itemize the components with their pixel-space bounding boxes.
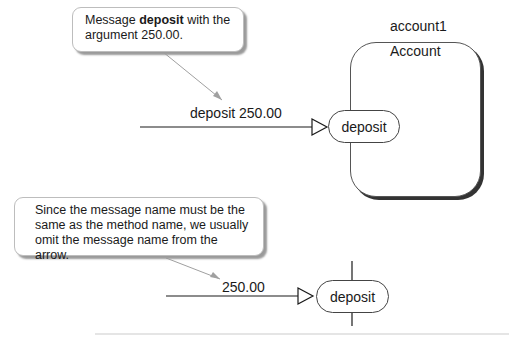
pointer-arrowhead-1 (213, 91, 222, 100)
arrowhead-icon-1 (312, 119, 327, 135)
pointer-arrowhead-2 (210, 272, 220, 279)
callout-bold-method: deposit (139, 13, 183, 27)
class-name: Account (390, 43, 441, 59)
method-oval-deposit: deposit (328, 110, 400, 143)
method-oval-deposit-2: deposit (316, 280, 389, 313)
callout-omit-message-name: Since the message name must be the same … (14, 197, 264, 256)
diagram-canvas: Message deposit with the argument 250.00… (0, 0, 509, 342)
callout-pointer-1 (163, 52, 222, 100)
message-label-1: deposit 250.00 (190, 105, 282, 121)
object-name: account1 (390, 18, 447, 34)
arrowhead-icon-2 (298, 288, 313, 304)
callout-message-deposit: Message deposit with the argument 250.00… (72, 7, 244, 52)
message-label-2: 250.00 (222, 279, 265, 295)
